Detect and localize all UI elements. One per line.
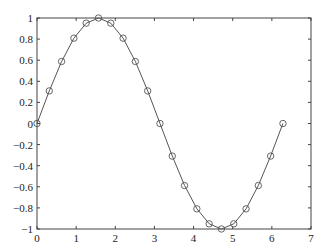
y-tick-label: 0.4 (19, 75, 33, 87)
plot-series (34, 15, 286, 232)
y-tick-label: −0.6 (13, 181, 33, 193)
y-tick-label: 0.2 (19, 96, 33, 108)
axes-frame (37, 18, 311, 229)
sine-chart: 01234567 −1−0.8−0.6−0.4−0.200.20.40.60.8… (0, 0, 324, 252)
x-tick-label: 1 (73, 232, 79, 244)
axes-box (37, 18, 311, 229)
series-line (37, 18, 283, 229)
y-tick-label: 0 (28, 118, 34, 130)
x-tick-label: 6 (269, 232, 275, 244)
y-tick-label: 1 (28, 12, 34, 24)
x-axis-ticks: 01234567 (34, 18, 314, 244)
y-axis-ticks: −1−0.8−0.6−0.4−0.200.20.40.60.81 (13, 12, 311, 235)
x-tick-label: 4 (191, 232, 197, 244)
x-tick-label: 7 (308, 232, 314, 244)
data-point-marker (280, 120, 286, 126)
x-tick-label: 3 (152, 232, 158, 244)
x-tick-label: 2 (113, 232, 119, 244)
y-tick-label: −0.2 (13, 139, 33, 151)
y-tick-label: −1 (21, 223, 33, 235)
y-tick-label: 0.8 (19, 33, 33, 45)
y-tick-label: −0.8 (13, 202, 33, 214)
x-tick-label: 0 (34, 232, 40, 244)
y-tick-label: −0.4 (13, 160, 33, 172)
x-tick-label: 5 (230, 232, 236, 244)
y-tick-label: 0.6 (19, 54, 33, 66)
